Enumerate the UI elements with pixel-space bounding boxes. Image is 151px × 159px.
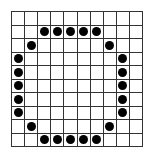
grid-cell	[51, 93, 64, 107]
grid-cell	[12, 26, 25, 40]
grid-cell	[25, 120, 38, 134]
grid-cell	[117, 39, 130, 53]
grid-cell	[38, 53, 51, 67]
grid-cell	[117, 120, 130, 134]
grid-cell	[64, 93, 77, 107]
grid-cell	[38, 66, 51, 80]
grid-cell	[25, 93, 38, 107]
dot-marker	[14, 81, 23, 90]
dot-marker	[66, 27, 75, 36]
grid-cell	[91, 53, 104, 67]
grid-cell	[64, 120, 77, 134]
dot-marker	[66, 135, 75, 144]
grid-cell	[38, 120, 51, 134]
grid-cell	[51, 120, 64, 134]
grid-cell	[25, 80, 38, 94]
grid-cell	[91, 26, 104, 40]
grid-cell	[104, 80, 117, 94]
grid-cell	[78, 93, 91, 107]
grid-cell	[51, 53, 64, 67]
grid-cell	[104, 26, 117, 40]
grid-cell	[38, 39, 51, 53]
grid-cell	[104, 53, 117, 67]
grid-cell	[51, 80, 64, 94]
grid-cell	[104, 120, 117, 134]
grid-cell	[51, 26, 64, 40]
grid-cell	[64, 134, 77, 148]
grid-cell	[91, 134, 104, 148]
grid-cell	[117, 66, 130, 80]
dot-marker	[14, 54, 23, 63]
grid-cell	[12, 93, 25, 107]
grid-cell	[78, 53, 91, 67]
grid-cell	[117, 134, 130, 148]
grid-cell	[104, 39, 117, 53]
dot-marker	[27, 41, 36, 50]
grid-cell	[38, 26, 51, 40]
dot-marker	[14, 68, 23, 77]
grid-cell	[64, 66, 77, 80]
grid-cell	[25, 26, 38, 40]
dot-marker	[118, 95, 127, 104]
grid-cell	[91, 120, 104, 134]
dot-marker	[14, 108, 23, 117]
grid-cell	[25, 66, 38, 80]
grid-cell	[130, 26, 143, 40]
grid-cell	[104, 66, 117, 80]
grid-cell	[12, 80, 25, 94]
grid-cell	[78, 80, 91, 94]
grid-cell	[12, 39, 25, 53]
grid-cell	[130, 12, 143, 26]
grid-cell	[117, 12, 130, 26]
grid-cell	[78, 120, 91, 134]
grid-cell	[38, 134, 51, 148]
grid-cell	[64, 80, 77, 94]
grid-cell	[38, 93, 51, 107]
grid-cell	[117, 26, 130, 40]
grid-cell	[38, 107, 51, 121]
grid-cell	[51, 66, 64, 80]
grid-cell	[130, 80, 143, 94]
grid-cell	[78, 134, 91, 148]
grid-cell	[64, 107, 77, 121]
grid-cell	[130, 120, 143, 134]
grid-cell	[130, 53, 143, 67]
grid-cell	[38, 12, 51, 26]
grid-cell	[104, 93, 117, 107]
grid-cell	[12, 120, 25, 134]
grid-cell	[64, 39, 77, 53]
grid-cell	[12, 134, 25, 148]
dot-marker	[40, 27, 49, 36]
grid-cell	[78, 12, 91, 26]
grid-cell	[91, 80, 104, 94]
grid-cell	[51, 107, 64, 121]
grid-cell	[12, 53, 25, 67]
grid-cell	[130, 39, 143, 53]
grid-cell	[51, 12, 64, 26]
grid-cell	[130, 66, 143, 80]
grid-cell	[25, 53, 38, 67]
grid-cell	[12, 107, 25, 121]
dot-marker	[118, 68, 127, 77]
grid-cell	[91, 12, 104, 26]
dot-marker	[79, 135, 88, 144]
dot-grid	[11, 11, 143, 147]
grid-cell	[91, 107, 104, 121]
grid-cell	[38, 80, 51, 94]
dot-marker	[40, 135, 49, 144]
dot-marker	[118, 54, 127, 63]
grid-cell	[51, 134, 64, 148]
dot-marker	[92, 135, 101, 144]
grid-cell	[117, 93, 130, 107]
grid-cell	[78, 107, 91, 121]
grid-cell	[25, 39, 38, 53]
dot-marker	[53, 27, 62, 36]
grid-cell	[104, 134, 117, 148]
grid-cell	[51, 39, 64, 53]
grid-cell	[78, 39, 91, 53]
grid-cell	[130, 134, 143, 148]
dot-marker	[92, 27, 101, 36]
grid-cell	[64, 53, 77, 67]
grid-cell	[91, 66, 104, 80]
dot-marker	[53, 135, 62, 144]
